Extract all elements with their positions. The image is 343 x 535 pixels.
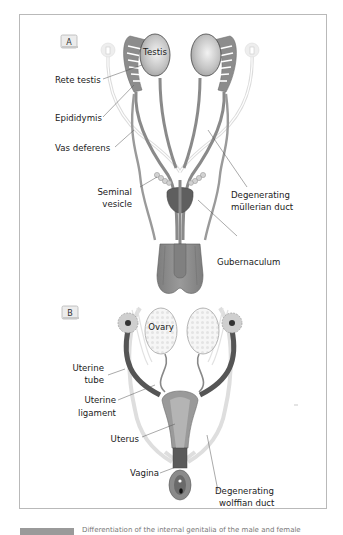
leader-lines-b xyxy=(108,369,218,491)
panel-a: A xyxy=(55,34,294,293)
label-wolffian-2: wolffian duct xyxy=(219,498,275,508)
scrotum xyxy=(157,244,203,293)
svg-text:B: B xyxy=(67,309,73,318)
ovary-right xyxy=(187,308,219,354)
label-uterine-ligament-2: ligament xyxy=(78,408,117,418)
label-mullerian-2: müllerian duct xyxy=(231,202,294,212)
figure-number-badge xyxy=(20,528,74,535)
label-uterine-ligament-1: Uterine xyxy=(84,395,116,405)
label-ovary: Ovary xyxy=(148,322,174,332)
label-uterine-tube-1: Uterine xyxy=(72,363,104,373)
uterus xyxy=(162,391,198,448)
uterine-ligament xyxy=(160,354,203,392)
vagina xyxy=(173,448,187,468)
testis-right xyxy=(191,34,221,76)
label-testis: Testis xyxy=(142,47,167,57)
label-uterus: Uterus xyxy=(111,434,140,444)
label-seminal-vesicle-2: vesicle xyxy=(102,199,132,209)
svg-text:A: A xyxy=(66,38,72,47)
label-uterine-tube-2: tube xyxy=(84,375,104,385)
panel-b: B Ova xyxy=(62,306,298,508)
label-wolffian-1: Degenerating xyxy=(215,486,274,496)
panel-a-tag: A xyxy=(61,35,78,48)
reproductive-development-diagram: A xyxy=(0,0,343,535)
panel-b-tag: B xyxy=(62,306,79,319)
label-vagina: Vagina xyxy=(130,468,159,478)
figure-caption: Differentiation of the internal genitali… xyxy=(82,526,327,535)
label-mullerian-1: Degenerating xyxy=(231,190,290,200)
external-genitalia xyxy=(169,470,191,500)
label-gubernaculum: Gubernaculum xyxy=(217,257,280,267)
label-epididymis: Epididymis xyxy=(55,113,102,123)
label-seminal-vesicle-1: Seminal xyxy=(97,187,132,197)
label-vas-deferens: Vas deferens xyxy=(55,143,111,153)
label-rete-testis: Rete testis xyxy=(55,75,101,85)
